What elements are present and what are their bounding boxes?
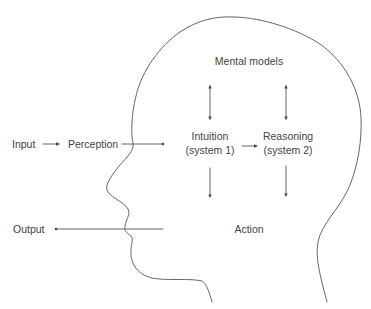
- output-label: Output: [13, 222, 45, 236]
- reasoning-label: Reasoning (system 2): [263, 129, 313, 157]
- arrowhead-icon: [56, 142, 60, 146]
- perception-label: Perception: [68, 137, 118, 151]
- arrowhead-icon: [284, 194, 287, 198]
- arrowhead-icon: [208, 117, 211, 121]
- action-label: Action: [234, 222, 263, 236]
- input-label: Input: [12, 137, 35, 151]
- mental-models-label: Mental models: [215, 54, 283, 68]
- arrowhead-icon: [208, 85, 211, 89]
- arrowhead-icon: [284, 117, 287, 121]
- intuition-subtitle: (system 1): [185, 143, 234, 157]
- reasoning-subtitle: (system 2): [263, 143, 313, 157]
- reasoning-title: Reasoning: [263, 129, 313, 143]
- arrowhead-icon: [254, 144, 258, 148]
- diagram-canvas: Input Perception Mental models Intuition…: [0, 0, 371, 309]
- arrowhead-icon: [55, 228, 58, 231]
- arrowhead-icon: [284, 85, 287, 89]
- arrowhead-icon: [162, 143, 165, 146]
- intuition-title: Intuition: [185, 129, 234, 143]
- arrowhead-icon: [208, 195, 211, 199]
- intuition-label: Intuition (system 1): [185, 129, 234, 157]
